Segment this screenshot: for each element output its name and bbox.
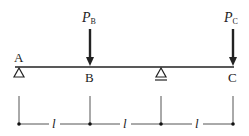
label-c: C [228,70,237,85]
load-symbol-c: P [223,10,233,25]
load-arrow-c-icon [229,29,237,66]
load-subscript-c: C [233,17,238,26]
roller-support-icon [155,68,167,80]
dimension-label-ab: l [52,116,56,131]
load-symbol-b: P [81,10,91,25]
load-label-c: PC [223,10,238,26]
load-arrow-b-icon [86,29,94,66]
label-a: A [14,50,24,65]
label-b: B [85,70,94,85]
dimension-label-bd: l [123,116,127,131]
load-label-b: PB [81,10,96,26]
pin-support-a-icon [14,68,24,77]
load-subscript-b: B [91,17,96,26]
beam-diagram: A B PB C PC [0,0,249,136]
dimension-label-dc: l [195,116,199,131]
